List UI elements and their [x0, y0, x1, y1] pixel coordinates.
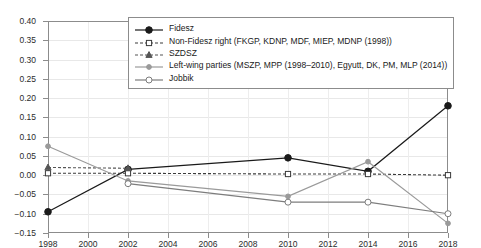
y-axis-tick-label: 0.05 [2, 152, 36, 160]
x-axis-tick-mark [368, 233, 369, 238]
legend-key-icon [134, 22, 164, 34]
x-axis-tick-label: 2004 [148, 240, 188, 248]
y-axis-tick-label: 0.10 [2, 133, 36, 141]
legend-item: SZDSZ [134, 47, 447, 59]
gridline-vertical [88, 22, 89, 232]
x-axis-tick-label: 2000 [68, 240, 108, 248]
x-axis-tick-label: 2016 [388, 240, 428, 248]
legend-label: Jobbik [169, 73, 194, 83]
x-axis-tick-label: 1998 [28, 240, 68, 248]
y-axis-tick-label: 0.35 [2, 36, 36, 44]
legend-item: Non-Fidesz right (FKGP, KDNP, MDF, MIEP,… [134, 34, 447, 46]
y-axis-tick-label: −0.10 [2, 210, 36, 218]
legend-key-icon [134, 35, 164, 47]
y-axis-tick-label: 0.20 [2, 94, 36, 102]
legend-label: SZDSZ [169, 48, 197, 58]
legend-item: Jobbik [134, 72, 447, 84]
data-point-marker [146, 27, 153, 34]
y-axis-tick-label: 0.30 [2, 56, 36, 64]
x-axis-tick-label: 2014 [348, 240, 388, 248]
x-axis-tick-mark [208, 233, 209, 238]
x-axis-tick-label: 2012 [308, 240, 348, 248]
legend-label: Fidesz [169, 23, 194, 33]
chart-legend: FideszNon-Fidesz right (FKGP, KDNP, MDF,… [128, 17, 454, 89]
x-axis-tick-mark [88, 233, 89, 238]
y-axis-tick-label: −0.05 [2, 190, 36, 198]
legend-key-icon [134, 59, 164, 71]
y-axis-tick-label: 0.25 [2, 75, 36, 83]
x-axis-tick-mark [168, 233, 169, 238]
x-axis-tick-label: 2010 [268, 240, 308, 248]
legend-key-icon [134, 72, 164, 84]
x-axis-tick-label: 2002 [108, 240, 148, 248]
x-axis-tick-label: 2006 [188, 240, 228, 248]
y-axis-tick-label: 0.40 [2, 17, 36, 25]
x-axis-tick-mark [448, 233, 449, 238]
y-axis-tick-label: 0.15 [2, 113, 36, 121]
x-axis-tick-mark [48, 233, 49, 238]
legend-label: Left-wing parties (MSZP, MPP (1998–2010)… [169, 60, 447, 70]
x-axis-tick-mark [128, 233, 129, 238]
x-axis-tick-label: 2018 [428, 240, 468, 248]
legend-item: Fidesz [134, 22, 447, 34]
legend-label: Non-Fidesz right (FKGP, KDNP, MDF, MIEP,… [169, 36, 392, 46]
chart-figure: 0.400.350.300.250.200.150.100.050.00−0.0… [0, 0, 481, 248]
y-axis-tick-label: 0.00 [2, 171, 36, 179]
data-point-marker [146, 77, 152, 83]
x-axis-tick-mark [248, 233, 249, 238]
y-axis-tick-label: −0.15 [2, 229, 36, 237]
x-axis-tick-label: 2008 [228, 240, 268, 248]
x-axis-tick-mark [328, 233, 329, 238]
legend-item: Left-wing parties (MSZP, MPP (1998–2010)… [134, 59, 447, 71]
legend-key-icon [134, 47, 164, 59]
x-axis-tick-mark [288, 233, 289, 238]
data-point-marker [147, 65, 152, 70]
data-point-marker [146, 40, 151, 45]
x-axis-tick-mark [408, 233, 409, 238]
